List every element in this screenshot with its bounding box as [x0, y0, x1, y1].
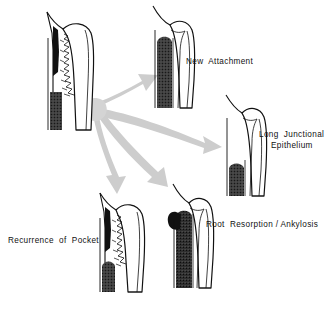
gingival-margin-line: [153, 6, 170, 25]
label-line-1: Long Junctional: [259, 130, 324, 139]
alveolar-bone-crest: [50, 93, 62, 131]
alveolar-bone-block: [102, 262, 115, 293]
gingival-crest-line: [100, 193, 116, 210]
periodontal-pocket-fill: [105, 207, 111, 252]
tooth-diagram-recurrence-of-pocket: [100, 193, 145, 292]
tooth-outline: [242, 108, 267, 196]
label-recurrence-of-pocket: Recurrence of Pocket: [8, 236, 99, 247]
regenerated-bone-block: [157, 37, 172, 108]
periodontal-pocket-fill: [53, 26, 59, 76]
label-line-2: Epithelium: [271, 141, 313, 152]
figure-canvas: [0, 0, 330, 310]
arrow-to-new-attachment: [96, 74, 158, 107]
tooth-diagram-initial-defect: [47, 12, 94, 130]
periodontal-healing-figure: New Attachment Long JunctionalEpithelium…: [0, 0, 330, 310]
gingival-margin-line: [173, 184, 189, 203]
label-new-attachment: New Attachment: [186, 57, 253, 68]
label-root-resorption-ankylosis: Root Resorption / Ankylosis: [206, 220, 318, 231]
tooth-diagram-root-resorption-ankylosis: [168, 184, 214, 288]
alveolar-bone-block: [229, 164, 244, 197]
arrow-group: [83, 74, 222, 194]
gingival-margin-line: [226, 95, 242, 113]
label-long-junctional-epithelium: Long JunctionalEpithelium: [259, 130, 324, 151]
tooth-outline: [63, 24, 94, 130]
